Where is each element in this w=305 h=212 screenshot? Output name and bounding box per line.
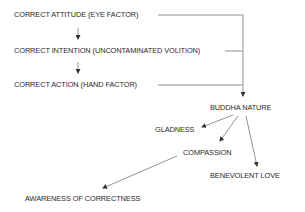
- node-compassion: COMPASSION: [183, 148, 232, 157]
- node-correct-attitude: CORRECT ATTITUDE (EYE FACTOR): [14, 10, 138, 19]
- node-gladness: GLADNESS: [155, 125, 194, 134]
- arrow-to-compassion: [220, 116, 238, 141]
- arrow-to-awareness: [103, 156, 177, 188]
- arrow-to-benevolent-love: [246, 116, 257, 166]
- diagram-canvas: CORRECT ATTITUDE (EYE FACTOR) CORRECT IN…: [0, 0, 305, 212]
- node-benevolent-love: BENEVOLENT LOVE: [210, 171, 280, 180]
- arrow-to-gladness: [202, 115, 233, 127]
- node-correct-intention: CORRECT INTENTION (UNCONTAMINATED VOLITI…: [14, 46, 200, 55]
- node-awareness-of-correctness: AWARENESS OF CORRECTNESS: [25, 194, 140, 203]
- node-correct-action: CORRECT ACTION (HAND FACTOR): [14, 80, 137, 89]
- node-buddha-nature: BUDDHA NATURE: [210, 103, 271, 112]
